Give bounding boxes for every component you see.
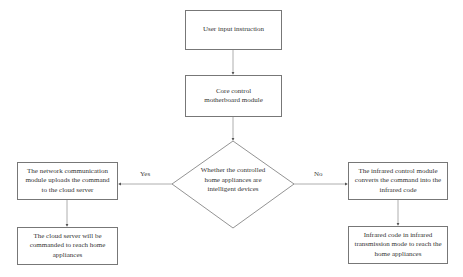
node-infrared-transmit: Infrared code in infrared transmission m… — [348, 226, 448, 264]
node-core-control: Core control motherboard module — [185, 75, 282, 117]
node-core-control-text: Core control motherboard module — [200, 87, 267, 106]
yes-label: Yes — [140, 170, 150, 178]
node-user-input-text: User input instruction — [203, 25, 264, 35]
no-label: No — [314, 170, 323, 178]
node-user-input: User input instruction — [185, 10, 282, 50]
node-cloud-server: The cloud server will be commanded to re… — [17, 227, 118, 265]
node-network-upload: The network communication module uploads… — [17, 162, 118, 200]
node-cloud-server-text: The cloud server will be commanded to re… — [28, 232, 107, 261]
node-infrared-transmit-text: Infrared code in infrared transmission m… — [353, 231, 443, 260]
decision-text: Whether the controlled home appliances a… — [193, 166, 273, 195]
node-network-upload-text: The network communication module uploads… — [22, 167, 113, 196]
node-infrared-convert-text: The infrared control module converts the… — [353, 167, 443, 196]
node-infrared-convert: The infrared control module converts the… — [348, 162, 448, 200]
